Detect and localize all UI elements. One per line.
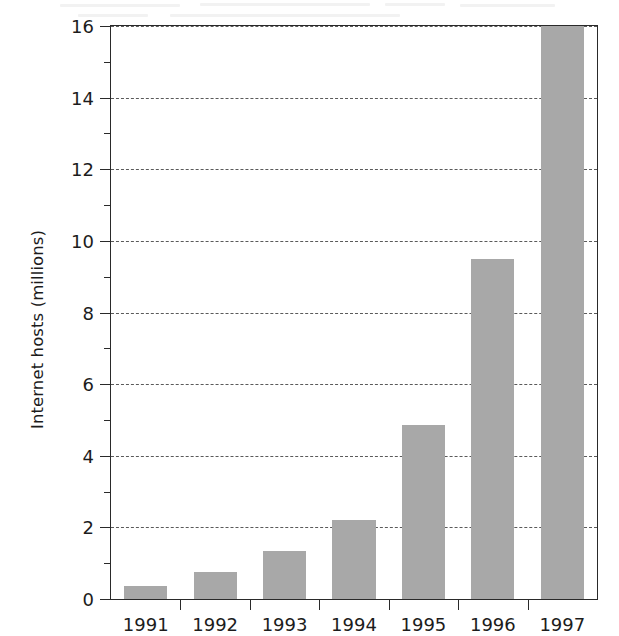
y-minor-tick-7	[104, 348, 111, 349]
x-tick-label-1996: 1996	[470, 614, 516, 635]
x-tick-label-1993: 1993	[262, 614, 308, 635]
plot-area: 0246810121416199119921993199419951996199…	[110, 25, 598, 600]
x-tick-label-1991: 1991	[123, 614, 169, 635]
y-tick-label-16: 16	[71, 16, 94, 37]
bar-1993	[263, 551, 306, 599]
y-minor-tick-9	[104, 277, 111, 278]
y-tick-label-14: 14	[71, 87, 94, 108]
bar-1996	[471, 259, 514, 599]
y-minor-tick-13	[104, 133, 111, 134]
y-minor-tick-5	[104, 420, 111, 421]
bar-1997	[541, 26, 584, 599]
scan-artifact	[170, 14, 400, 17]
y-tick-2	[100, 527, 111, 528]
y-tick-4	[100, 456, 111, 457]
bar-1995	[402, 425, 445, 599]
scan-artifact	[460, 4, 555, 7]
y-tick-16	[100, 26, 111, 27]
y-tick-label-0: 0	[83, 589, 94, 610]
scan-artifact	[385, 3, 445, 6]
y-tick-0	[100, 599, 111, 600]
y-minor-tick-3	[104, 492, 111, 493]
bar-chart-figure: Internet hosts (millions) 02468101214161…	[0, 0, 619, 636]
x-tick-label-1995: 1995	[401, 614, 447, 635]
y-tick-10	[100, 241, 111, 242]
y-minor-tick-1	[104, 563, 111, 564]
y-minor-tick-11	[104, 205, 111, 206]
y-tick-label-4: 4	[83, 445, 94, 466]
y-tick-label-2: 2	[83, 517, 94, 538]
bar-1991	[124, 586, 167, 599]
x-tick-6	[528, 599, 529, 610]
x-tick-3	[319, 599, 320, 610]
x-tick-label-1992: 1992	[192, 614, 238, 635]
x-tick-label-1994: 1994	[331, 614, 377, 635]
y-tick-12	[100, 169, 111, 170]
y-tick-label-6: 6	[83, 374, 94, 395]
x-tick-4	[389, 599, 390, 610]
bar-1994	[332, 520, 375, 599]
bar-1992	[194, 572, 237, 599]
bars	[111, 26, 597, 599]
x-tick-5	[458, 599, 459, 610]
y-tick-6	[100, 384, 111, 385]
y-tick-label-10: 10	[71, 230, 94, 251]
scan-artifact	[200, 3, 370, 6]
x-tick-label-1997: 1997	[539, 614, 585, 635]
y-minor-tick-15	[104, 62, 111, 63]
x-tick-2	[250, 599, 251, 610]
y-axis-title: Internet hosts (millions)	[28, 160, 47, 500]
x-tick-1	[180, 599, 181, 610]
scan-artifact	[60, 4, 180, 7]
y-tick-14	[100, 98, 111, 99]
y-tick-label-8: 8	[83, 302, 94, 323]
y-tick-8	[100, 313, 111, 314]
y-tick-label-12: 12	[71, 159, 94, 180]
